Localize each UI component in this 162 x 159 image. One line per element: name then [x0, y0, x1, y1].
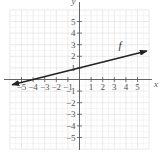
function-label-f: f: [119, 39, 124, 51]
y-tick-label: −2: [66, 98, 76, 108]
x-tick-label: 2: [100, 82, 105, 92]
x-tick-label: 4: [124, 82, 129, 92]
axes: [4, 2, 152, 150]
y-tick-label: 3: [71, 40, 76, 50]
y-tick-label: −4: [66, 121, 76, 131]
y-tick-label: −3: [66, 109, 76, 119]
coordinate-graph: −5−4−3−2−112345−5−4−3−2−112345 xyf: [0, 0, 162, 159]
y-tick-label: −1: [66, 86, 76, 96]
x-tick-label: 3: [112, 82, 117, 92]
y-tick-label: 2: [71, 51, 76, 61]
x-tick-label: −4: [28, 82, 38, 92]
y-axis-label: y: [71, 0, 76, 6]
x-tick-label: −3: [40, 82, 50, 92]
y-tick-label: 1: [71, 63, 76, 73]
x-tick-label: −2: [52, 82, 62, 92]
x-tick-label: 5: [135, 82, 140, 92]
y-tick-label: 5: [71, 17, 76, 27]
y-tick-label: 4: [71, 28, 76, 38]
y-tick-label: −5: [66, 133, 76, 143]
x-axis-label: x: [153, 79, 158, 89]
x-tick-label: 1: [89, 82, 94, 92]
